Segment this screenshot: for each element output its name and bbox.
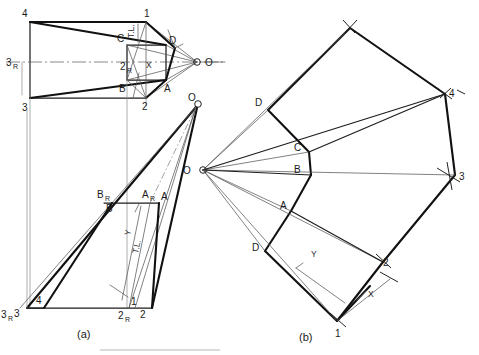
label-top-A: A [164,83,171,94]
label-top-O: O [205,57,213,68]
dev-edge-1-D2 [265,251,337,321]
label-dev-C: C [294,142,301,153]
label-dev-A: A [280,200,287,211]
arrow-tick-front-b [135,204,139,212]
label-top-C: C [117,33,124,44]
ray-O-B [127,62,197,80]
arrow-tail-2 [133,73,139,98]
label-dev-B: B [294,164,301,175]
label-top-2R: 2 R [120,61,132,74]
label-front-true-length: T.L. [130,239,143,254]
edge-4-B [44,203,112,308]
dev-edge-D2-A [265,211,291,251]
svg-text:R: R [127,67,132,74]
label-dev-3: 3 [459,171,465,182]
label-front-Y: Y [122,228,133,236]
dev-edge-2-1 [337,262,383,321]
dev-fold-A-2 [291,211,383,262]
label-dev-D1: D [255,97,262,108]
svg-text:R: R [150,195,155,202]
slant-4-D [30,22,166,45]
dev-edge-A-B [291,175,311,211]
dev-fold-1-X [337,286,370,321]
label-front-A: A [161,191,168,202]
svg-text:R: R [105,195,110,202]
label-front-AR: A R [142,189,155,202]
label-top-B: B [119,83,126,94]
tick-2-b [380,272,398,282]
dim-X-line [337,279,390,321]
development-group: O D C B A D 1 2 3 4 X Y (b) [183,20,465,343]
label-top-D: D [169,35,176,46]
label-front-1: 1 [131,296,137,307]
svg-text:3: 3 [6,57,12,68]
edge-2R-O [129,107,196,308]
dev-edge-3-2 [383,175,455,262]
label-top-3R: 3 R [6,57,18,70]
svg-text:B: B [97,189,104,200]
top-view-group: 4 3 3 R 1 2 2 R C D B A O X T.L. [6,8,225,308]
drawing-canvas: 4 3 3 R 1 2 2 R C D B A O X T.L. [0,0,479,355]
label-front-2R: 2 R [118,310,130,323]
label-front-2: 2 [140,309,146,320]
svg-text:3: 3 [1,309,7,320]
label-front-4: 4 [36,295,42,306]
tick-4-c [457,90,465,94]
label-front-B: B [106,203,113,214]
dev-ray-O-top [203,28,350,170]
svg-text:2: 2 [120,61,126,72]
caption-b: (b) [299,331,312,343]
dev-ray-O-1 [203,170,337,321]
dim-Y-arrow [296,263,303,268]
label-top-4: 4 [22,8,28,19]
svg-text:R: R [8,315,13,322]
label-front-BR: B R [97,189,110,202]
caption-a: (a) [77,328,90,340]
label-dev-Y: Y [311,249,317,259]
svg-text:2: 2 [118,310,124,321]
technical-drawing-figure: 4 3 3 R 1 2 2 R C D B A O X T.L. [0,0,479,355]
dev-ray-O-A [203,170,291,211]
label-top-true-length: T.L. [126,24,136,38]
dev-fold-C-4 [309,94,445,152]
label-top-2: 2 [142,101,148,112]
label-dev-2: 2 [383,257,389,268]
svg-text:R: R [13,63,18,70]
dev-ray-O-2 [203,170,383,262]
svg-text:R: R [125,316,130,323]
dev-edge-B-C [309,152,311,175]
label-top-X: X [146,60,152,70]
slant-3-A [30,80,166,98]
dev-edge-4-3 [445,94,455,175]
label-dev-O: O [183,165,191,176]
svg-text:A: A [142,189,149,200]
label-front-3: 3 [14,308,20,319]
label-dev-4: 4 [449,88,455,99]
arrow-tick-front-a [110,285,128,297]
edge-1-O [135,107,196,308]
dev-edge-C-D1 [268,110,309,152]
front-view-group: 3 R 3 4 1 2 R 2 B R B A R A O Y T.L. (a) [1,92,201,340]
label-dev-D2: D [252,242,259,253]
ray-O-D [166,45,197,62]
dev-ray-O-3 [203,170,455,175]
label-top-1: 1 [144,8,150,19]
label-front-O: O [188,92,196,103]
dev-edge-top-4 [350,28,445,94]
dev-ray-O-4 [203,94,445,170]
label-dev-1: 1 [335,328,341,339]
dim-Y-line [296,268,345,303]
label-front-3R: 3 R [1,309,13,322]
label-dev-X: X [368,289,374,299]
tick-top-a [343,20,355,33]
dev-ray-O-D2 [203,170,265,251]
